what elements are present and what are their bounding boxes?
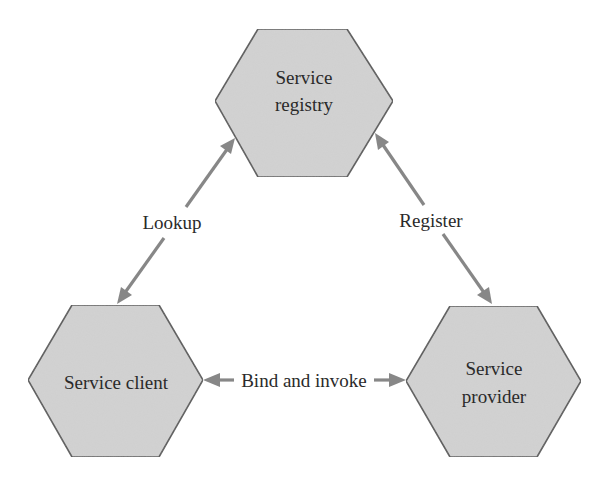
arrowhead-icon: [220, 138, 235, 154]
edge-line-segment: [381, 142, 424, 205]
node-label-line: Service: [276, 67, 333, 88]
node-service-registry: Service registry: [215, 29, 393, 177]
node-label-line: Service client: [64, 372, 169, 393]
edge-label-register: Register: [399, 210, 463, 231]
node-label-line: registry: [275, 94, 334, 115]
arrowhead-icon: [389, 373, 406, 387]
arrowhead-icon: [375, 133, 389, 150]
edge-line-segment: [124, 238, 164, 294]
edge-line-segment: [186, 148, 228, 207]
edge-label-bind-and-invoke: Bind and invoke: [241, 370, 367, 391]
node-label-line: provider: [462, 386, 527, 407]
arrowhead-icon: [203, 373, 220, 387]
edge-register: Register: [375, 133, 492, 304]
hexagon-shape: [406, 306, 581, 457]
edge-label-lookup: Lookup: [142, 212, 201, 233]
node-service-client: Service client: [28, 305, 203, 457]
edge-lookup: Lookup: [117, 138, 235, 304]
edge-line-segment: [443, 234, 485, 294]
arrowhead-icon: [477, 287, 492, 304]
edge-bind-and-invoke: Bind and invoke: [203, 370, 406, 391]
node-label-line: Service: [466, 358, 523, 379]
arrowhead-icon: [117, 287, 132, 304]
soa-triangle-diagram: Service registry Service client Service …: [0, 0, 606, 482]
node-service-provider: Service provider: [406, 306, 581, 457]
